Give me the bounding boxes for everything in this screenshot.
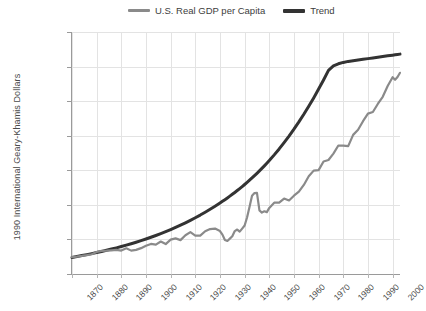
x-tick-label: 1960: [306, 282, 326, 302]
x-tick-label: 1930: [233, 282, 253, 302]
series-layer: [72, 32, 400, 274]
x-tick-label: 1870: [85, 282, 105, 302]
series-line-trend: [72, 54, 400, 257]
x-tick-mark: [245, 274, 246, 278]
x-tick-mark: [171, 274, 172, 278]
x-tick-label: 1880: [109, 282, 129, 302]
x-tick-mark: [269, 274, 270, 278]
x-tick-label: 1920: [208, 282, 228, 302]
x-tick-mark: [97, 274, 98, 278]
x-tick-mark: [146, 274, 147, 278]
x-tick-mark: [343, 274, 344, 278]
legend-swatch-gdp-icon: [128, 9, 150, 12]
x-tick-label: 1950: [282, 282, 302, 302]
legend-swatch-trend-icon: [283, 9, 305, 13]
x-tick-label: 1900: [159, 282, 179, 302]
x-tick-mark: [220, 274, 221, 278]
x-tick-label: 1970: [331, 282, 351, 302]
legend-item-trend: Trend: [283, 6, 334, 16]
legend-label-trend: Trend: [310, 6, 334, 16]
x-tick-mark: [294, 274, 295, 278]
x-tick-label: 1890: [134, 282, 154, 302]
x-tick-label: 1940: [257, 282, 277, 302]
legend-label-gdp: U.S. Real GDP per Capita: [155, 6, 265, 16]
plot-area: $35,0000$30,000$25,000$20,000$15,000$10,…: [72, 32, 400, 274]
y-axis-title: 1990 International Geary-Khamis Dollars: [12, 47, 22, 267]
legend-item-gdp: U.S. Real GDP per Capita: [128, 6, 265, 16]
x-tick-mark: [72, 274, 73, 278]
x-tick-label: 1990: [380, 282, 400, 302]
x-tick-mark: [195, 274, 196, 278]
chart-legend: U.S. Real GDP per Capita Trend: [128, 6, 335, 16]
x-tick-mark: [121, 274, 122, 278]
x-tick-mark: [393, 274, 394, 278]
x-tick-mark: [368, 274, 369, 278]
x-tick-label: 2000: [405, 282, 425, 302]
x-tick-label: 1910: [183, 282, 203, 302]
x-tick-mark: [319, 274, 320, 278]
series-line-gdp: [72, 73, 400, 257]
x-tick-label: 1980: [356, 282, 376, 302]
